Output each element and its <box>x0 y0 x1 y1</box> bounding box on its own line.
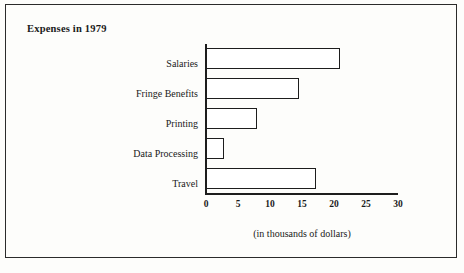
x-tick-label-30: 30 <box>387 199 409 210</box>
bar-fringe-benefits <box>206 78 299 99</box>
category-label-data-processing: Data Processing <box>133 149 198 159</box>
x-tick-label-5: 5 <box>227 199 249 210</box>
x-axis-line <box>206 193 398 195</box>
bar-printing <box>206 108 257 129</box>
bar-travel <box>206 168 316 189</box>
x-tick-label-10: 10 <box>259 199 281 210</box>
figure-container: Expenses in 1979 Salaries Fringe Benefit… <box>0 0 464 273</box>
bar-data-processing <box>206 138 224 159</box>
x-tick-label-0: 0 <box>195 199 217 210</box>
category-label-printing: Printing <box>166 119 198 129</box>
bar-salaries <box>206 48 340 69</box>
category-label-travel: Travel <box>172 179 198 189</box>
x-tick-label-20: 20 <box>323 199 345 210</box>
x-tick-label-25: 25 <box>355 199 377 210</box>
category-label-salaries: Salaries <box>166 59 198 69</box>
category-label-fringe-benefits: Fringe Benefits <box>136 89 198 99</box>
x-tick-label-15: 15 <box>291 199 313 210</box>
x-axis-caption: (in thousands of dollars) <box>206 228 398 239</box>
plot-area: Salaries Fringe Benefits Printing Data P… <box>0 0 464 273</box>
